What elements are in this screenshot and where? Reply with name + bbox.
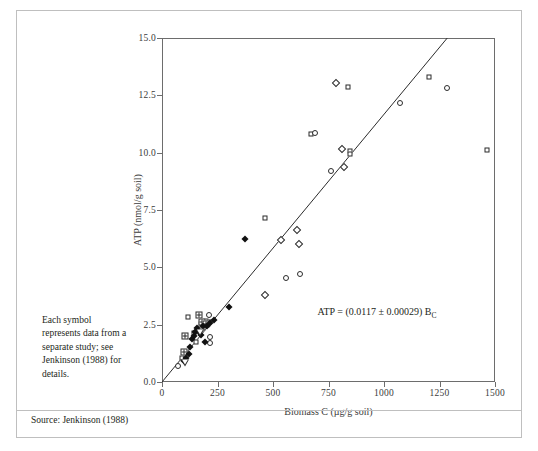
x-axis-tick bbox=[218, 382, 219, 387]
x-axis-tick bbox=[495, 382, 496, 387]
caption-note: Each symbol represents data from a separ… bbox=[42, 314, 128, 381]
y-axis-tick-label: 10.0 bbox=[139, 148, 156, 158]
data-point-open-triangle bbox=[196, 330, 204, 337]
data-point-open-circle bbox=[328, 168, 334, 174]
y-axis-tick-label: 7.5 bbox=[144, 205, 156, 215]
y-axis-label: ATP (nmol/g soil) bbox=[132, 174, 143, 246]
regression-equation-annotation: ATP = (0.0117 ± 0.00029) BC bbox=[317, 306, 436, 320]
x-axis-tick-label: 1500 bbox=[485, 388, 505, 398]
x-axis-tick bbox=[440, 382, 441, 387]
source-divider bbox=[17, 410, 521, 411]
regression-equation-text: ATP = (0.0117 ± 0.00029) B bbox=[317, 306, 431, 317]
x-axis-tick-label: 750 bbox=[321, 388, 336, 398]
data-point-open-square bbox=[348, 151, 353, 156]
data-point-open-triangle bbox=[181, 360, 189, 367]
x-axis-tick-label: 500 bbox=[266, 388, 281, 398]
data-point-open-circle bbox=[444, 85, 450, 91]
x-axis-tick-label: 0 bbox=[160, 388, 165, 398]
data-point-open-circle bbox=[397, 100, 403, 106]
y-axis-tick-label: 2.5 bbox=[144, 320, 156, 330]
data-point-open-circle bbox=[297, 271, 303, 277]
x-axis-tick bbox=[273, 382, 274, 387]
x-axis-tick bbox=[162, 382, 163, 387]
data-point-open-square bbox=[484, 148, 489, 153]
x-axis-tick-label: 1000 bbox=[374, 388, 394, 398]
y-axis-tick-label: 12.5 bbox=[139, 90, 156, 100]
data-point-open-circle bbox=[283, 275, 289, 281]
x-axis-label: Biomass C (µg/g soil) bbox=[284, 406, 372, 417]
x-axis-tick-label: 250 bbox=[210, 388, 225, 398]
plot-area: 0.02.55.07.510.012.515.00250500750100012… bbox=[162, 38, 495, 382]
data-point-open-square bbox=[426, 75, 431, 80]
x-axis-tick-label: 1250 bbox=[430, 388, 450, 398]
y-axis-tick-label: 5.0 bbox=[144, 262, 156, 272]
figure-container: 0.02.55.07.510.012.515.00250500750100012… bbox=[16, 10, 522, 438]
data-point-open-square bbox=[263, 216, 268, 221]
data-point-open-square bbox=[346, 84, 351, 89]
data-point-open-square bbox=[193, 340, 198, 345]
source-line: Source: Jenkinson (1988) bbox=[31, 415, 128, 425]
x-axis-tick bbox=[329, 382, 330, 387]
regression-equation-subscript: C bbox=[431, 311, 436, 320]
x-axis-tick bbox=[384, 382, 385, 387]
data-point-open-square bbox=[186, 315, 191, 320]
y-axis-tick-label: 15.0 bbox=[139, 33, 156, 43]
y-axis-tick-label: 0.0 bbox=[144, 377, 156, 387]
data-point-open-circle bbox=[312, 130, 318, 136]
